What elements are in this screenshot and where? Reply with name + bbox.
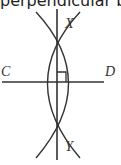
label-d: D [104, 64, 115, 79]
perpendicular-bisector-diagram: X Y C D [0, 0, 121, 165]
label-x: X [64, 16, 74, 31]
label-c: C [1, 64, 11, 79]
label-y: Y [65, 139, 75, 154]
right-angle-marker [57, 72, 66, 82]
